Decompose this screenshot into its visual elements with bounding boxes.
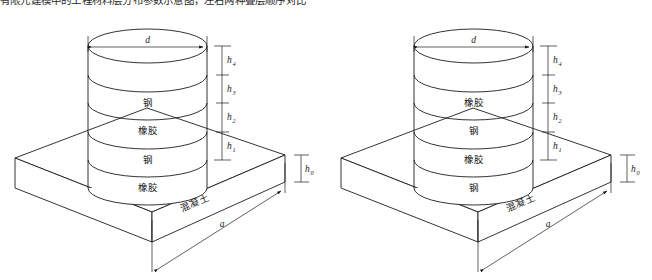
slab-thickness-dimension-right: h 0 [620, 155, 641, 182]
layer-label-right-3: 橡胶 [464, 154, 484, 165]
slab-thickness-label-left: h [305, 164, 310, 174]
left-bearing-diagram: 钢 橡胶 钢 橡胶 d h 4 [15, 29, 315, 272]
svg-text:h: h [553, 112, 558, 122]
width-label-left: a [220, 219, 225, 229]
height-label-right-h3: h 3 [553, 84, 562, 96]
svg-text:h: h [227, 112, 232, 122]
slab-thickness-dimension-left: h 0 [294, 155, 315, 182]
layer-label-left-2: 橡胶 [138, 125, 158, 136]
figure-svg: 钢 橡胶 钢 橡胶 d h 4 [0, 0, 652, 280]
layer-label-left-1: 钢 [143, 97, 153, 108]
svg-text:1: 1 [559, 146, 562, 153]
svg-text:h: h [553, 84, 558, 94]
diameter-label-right: d [471, 35, 476, 45]
layer-label-right-4: 钢 [469, 182, 479, 193]
height-label-left-h4: h 4 [227, 55, 236, 67]
svg-text:1: 1 [233, 146, 236, 153]
svg-text:h: h [553, 141, 558, 151]
svg-text:h: h [227, 84, 232, 94]
slab-thickness-sub-right: 0 [637, 169, 641, 176]
right-bearing-diagram: 橡胶 钢 橡胶 钢 d h 4 [341, 29, 641, 272]
svg-text:3: 3 [558, 89, 562, 96]
height-label-left-h2: h 2 [227, 112, 236, 124]
svg-text:3: 3 [232, 89, 236, 96]
svg-text:h: h [553, 55, 558, 65]
height-label-right-h4: h 4 [553, 55, 562, 67]
diagram-stage: 有限元建模中的工程材料层分布参数示意图，左右两种叠层顺序对比 [0, 0, 652, 280]
height-label-left-h3: h 3 [227, 84, 236, 96]
layer-label-right-2: 钢 [469, 125, 479, 136]
width-label-right: a [546, 219, 551, 229]
svg-text:2: 2 [233, 117, 236, 124]
svg-text:4: 4 [233, 60, 236, 67]
slab-thickness-label-right: h [631, 164, 636, 174]
svg-text:h: h [227, 55, 232, 65]
layer-label-left-4: 橡胶 [138, 182, 158, 193]
svg-text:h: h [227, 141, 232, 151]
slab-thickness-sub-left: 0 [311, 169, 315, 176]
svg-text:2: 2 [559, 117, 562, 124]
layer-label-right-1: 橡胶 [464, 97, 484, 108]
diameter-label-left: d [145, 35, 150, 45]
svg-text:4: 4 [559, 60, 562, 67]
height-label-right-h2: h 2 [553, 112, 562, 124]
layer-label-left-3: 钢 [143, 154, 153, 165]
